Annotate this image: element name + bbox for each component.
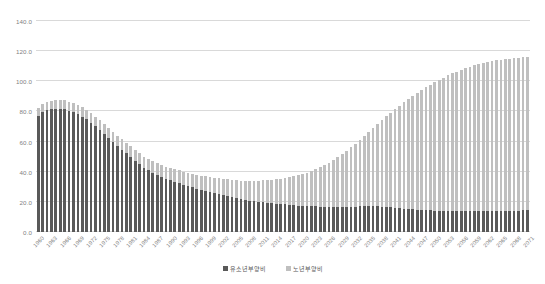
y-axis-tick-label: 80.0 (0, 108, 32, 115)
bar-segment-old-age (41, 104, 44, 112)
bar-stack (99, 120, 102, 232)
x-axis-tick-label: 1966 (59, 235, 72, 248)
bar-segment-youth (213, 193, 216, 232)
bar-stack (200, 176, 203, 233)
bar-stack (94, 117, 97, 232)
bar-segment-old-age (262, 180, 265, 202)
bar-segment-old-age (394, 109, 397, 208)
bar-stack (385, 116, 388, 232)
bar-segment-youth (473, 211, 476, 232)
bar-segment-old-age (513, 58, 516, 211)
bar-segment-youth (284, 204, 287, 232)
bar-stack (292, 176, 295, 232)
bar-segment-old-age (429, 85, 432, 211)
bar-segment-youth (451, 211, 454, 232)
bar-segment-youth (99, 130, 102, 232)
bar-segment-youth (240, 199, 243, 232)
bar-segment-youth (169, 180, 172, 232)
bar-segment-youth (411, 209, 414, 232)
bar-segment-youth (310, 206, 313, 232)
x-axis-tick-label: 2032 (350, 235, 363, 248)
bar-stack (407, 99, 410, 232)
bar-stack (270, 180, 273, 232)
bar-segment-old-age (416, 93, 419, 210)
bar-segment-old-age (438, 80, 441, 211)
bar-segment-old-age (248, 181, 251, 201)
bar-segment-old-age (94, 117, 97, 127)
bar-segment-old-age (367, 132, 370, 206)
bar-segment-youth (398, 208, 401, 232)
bar-stack (125, 143, 128, 232)
bars-layer (36, 21, 530, 232)
bar-segment-old-age (50, 101, 53, 109)
x-axis-tick-label: 1972 (85, 235, 98, 248)
bar-stack (403, 102, 406, 232)
x-axis-tick-label: 2050 (429, 235, 442, 248)
bar-stack (178, 170, 181, 232)
bar-segment-youth (231, 197, 234, 232)
bar-segment-youth (429, 210, 432, 232)
legend-swatch-icon (286, 266, 291, 271)
bar-stack (284, 178, 287, 232)
bar-stack (328, 163, 331, 232)
bar-segment-youth (416, 210, 419, 232)
bar-segment-youth (438, 211, 441, 232)
bar-segment-youth (433, 211, 436, 232)
bar-segment-youth (226, 196, 229, 232)
bar-stack (416, 93, 419, 232)
bar-stack (381, 120, 384, 232)
bar-stack (460, 70, 463, 232)
x-axis-tick-label: 1990 (164, 235, 177, 248)
bar-stack (526, 57, 529, 232)
bar-stack (151, 161, 154, 232)
bar-stack (77, 105, 80, 232)
bar-segment-old-age (359, 140, 362, 207)
bar-segment-youth (257, 202, 260, 232)
bar-segment-old-age (354, 144, 357, 207)
x-axis: 1960196319661969197219751978198119841987… (36, 233, 530, 263)
bar-segment-old-age (231, 180, 234, 197)
legend-item[interactable]: 노년부양비 (286, 264, 323, 273)
bar-segment-old-age (222, 179, 225, 195)
bar-segment-old-age (129, 146, 132, 157)
bar-segment-old-age (125, 143, 128, 154)
bar-stack (240, 181, 243, 232)
bar-stack (288, 177, 291, 232)
bar-segment-old-age (451, 73, 454, 211)
x-axis-tick-label: 2011 (257, 235, 270, 248)
bar-segment-old-age (473, 65, 476, 211)
bar-segment-old-age (341, 154, 344, 207)
bar-stack (513, 58, 516, 232)
bar-segment-youth (464, 211, 467, 232)
bar-segment-youth (218, 194, 221, 232)
bar-segment-old-age (200, 176, 203, 190)
bar-segment-old-age (433, 82, 436, 210)
bar-segment-old-age (477, 64, 480, 211)
x-axis-tick-label: 2062 (482, 235, 495, 248)
bar-stack (218, 178, 221, 232)
bar-stack (332, 160, 335, 232)
bar-segment-youth (292, 205, 295, 232)
bar-stack (508, 59, 511, 232)
bar-stack (235, 180, 238, 232)
bar-segment-youth (107, 138, 110, 232)
bar-segment-old-age (191, 174, 194, 188)
bar-segment-old-age (160, 165, 163, 177)
bar-segment-old-age (218, 178, 221, 194)
bar-segment-youth (54, 109, 57, 232)
bar-stack (425, 87, 428, 232)
dependency-ratio-chart: 0.020.040.060.080.0100.0120.0140.0 19601… (0, 0, 545, 284)
bar-segment-old-age (301, 174, 304, 206)
bar-stack (367, 132, 370, 232)
bar-segment-youth (403, 209, 406, 233)
x-axis-tick-label: 2026 (323, 235, 336, 248)
bar-segment-youth (477, 211, 480, 232)
bar-segment-old-age (266, 180, 269, 203)
x-axis-tick-label: 2059 (469, 235, 482, 248)
bar-segment-youth (482, 211, 485, 232)
bar-stack (173, 169, 176, 232)
bar-segment-old-age (68, 102, 71, 111)
bar-segment-youth (301, 206, 304, 232)
legend-item[interactable]: 유소년부양비 (223, 264, 266, 273)
bar-stack (411, 96, 414, 232)
